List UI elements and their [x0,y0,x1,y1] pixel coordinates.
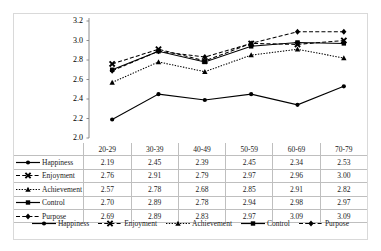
column-header-30-39: 30-39 [131,143,178,156]
table-cell: 2.19 [84,156,131,169]
table-cell: 2.98 [273,196,320,209]
series-name: Enjoyment [42,171,75,180]
y-axis-tick-label: 2.2 [61,115,83,123]
column-header-20-29: 20-29 [84,143,131,156]
table-cell: 2.45 [226,156,273,169]
table-cell: 2.45 [131,156,178,169]
legend-label: Achievement [192,219,232,228]
table-cell: 2.91 [273,183,320,196]
chart-figure: 2.02.22.42.62.83.03.2 20-2930-3940-4950-… [13,13,368,240]
legend-item-achievement[interactable]: Achievement [166,219,232,228]
series-happiness [110,84,346,121]
y-axis-tick-label: 3.0 [61,37,83,45]
legend-item-happiness[interactable]: Happiness [32,219,89,228]
series-purpose [110,29,347,74]
table-cell: 2.78 [131,183,178,196]
table-row: Enjoyment2.762.912.792.972.963.00 [14,169,367,182]
table-cell: 2.34 [273,156,320,169]
column-header-50-59: 50-59 [226,143,273,156]
series-key-triangle-icon [166,219,190,228]
series-key-circle-icon [32,219,56,228]
chart-legend: HappinessEnjoymentAchievementControlPurp… [14,219,367,228]
legend-label: Happiness [58,219,89,228]
series-label-enjoyment: Enjoyment [14,169,84,182]
table-cell: 2.70 [84,196,131,209]
series-name: Control [42,198,65,207]
legend-label: Enjoyment [124,219,157,228]
y-axis-tick-label: 2.8 [61,56,83,64]
plot-area: 2.02.22.42.62.83.03.2 [14,14,367,145]
series-key-square-icon [241,219,265,228]
series-key-circle-icon [16,158,40,167]
y-axis-tick-label: 2.6 [61,76,83,84]
data-table: 20-2930-3940-4950-5960-6970-79Happiness2… [14,143,367,223]
legend-item-control[interactable]: Control [241,219,290,228]
series-key-x-icon [16,171,40,180]
table-row: Happiness2.192.452.392.452.342.53 [14,156,367,169]
table-header-row: 20-2930-3940-4950-5960-6970-79 [14,143,367,156]
series-name: Happiness [42,158,73,167]
table-cell: 2.53 [320,156,367,169]
series-key-x-icon [98,219,122,228]
table-cell: 2.96 [273,169,320,182]
column-header-70-79: 70-79 [320,143,367,156]
table-cell: 2.89 [131,196,178,209]
table-cell: 2.39 [178,156,225,169]
series-label-happiness: Happiness [14,156,84,169]
table-cell: 2.97 [320,196,367,209]
table-cell: 2.91 [131,169,178,182]
table-cell: 2.85 [226,183,273,196]
y-axis-tick-label: 2.4 [61,95,83,103]
table-cell: 2.68 [178,183,225,196]
series-key-triangle-icon [16,185,40,194]
legend-label: Purpose [325,219,349,228]
table-cell: 2.78 [178,196,225,209]
series-name: Achievement [42,185,82,194]
series-key-square-icon [16,198,40,207]
series-label-achievement: Achievement [14,183,84,196]
table-cell: 2.76 [84,169,131,182]
table-cell: 2.82 [320,183,367,196]
legend-item-purpose[interactable]: Purpose [299,219,349,228]
legend-item-enjoyment[interactable]: Enjoyment [98,219,157,228]
column-header-40-49: 40-49 [178,143,225,156]
y-axis-tick-label: 2.0 [61,134,83,142]
series-key-diamond-icon [299,219,323,228]
series-label-control: Control [14,196,84,209]
table-cell: 2.97 [226,169,273,182]
table-cell: 2.79 [178,169,225,182]
column-header-60-69: 60-69 [273,143,320,156]
legend-label: Control [267,219,290,228]
table-row: Control2.702.892.782.942.982.97 [14,196,367,209]
y-axis-tick-label: 3.2 [61,17,83,25]
table-row: Achievement2.572.782.682.852.912.82 [14,183,367,196]
table-cell: 2.57 [84,183,131,196]
table-cell: 3.00 [320,169,367,182]
table-cell: 2.94 [226,196,273,209]
